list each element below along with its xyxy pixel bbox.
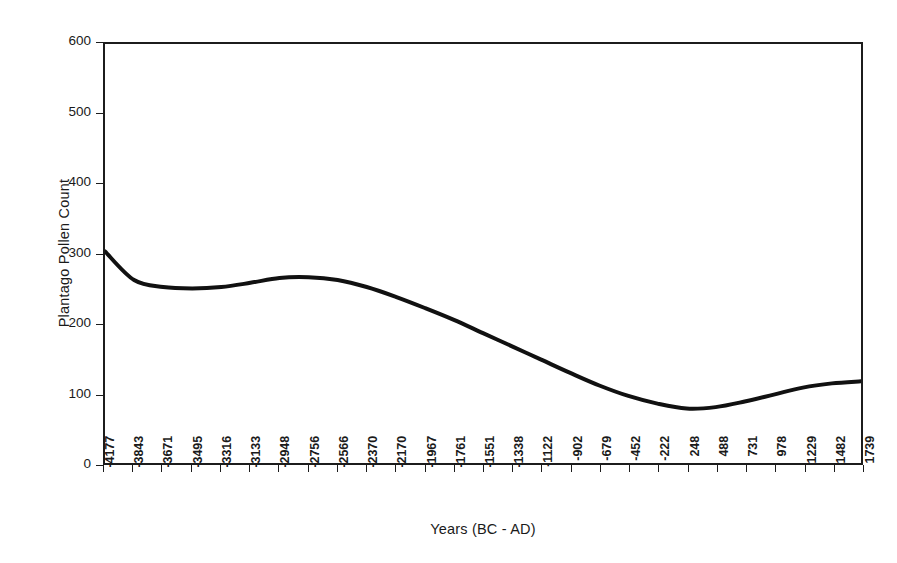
x-tick-label: -222: [658, 436, 672, 516]
y-tick-label: 300: [1, 245, 91, 260]
x-tick-label: -1551: [483, 436, 497, 516]
y-tick-label: 100: [1, 386, 91, 401]
x-tick-label: -452: [629, 436, 643, 516]
x-tick-label: -3495: [191, 436, 205, 516]
y-tick-mark: [96, 395, 103, 396]
y-tick-mark: [96, 465, 103, 466]
pollen-count-line: [105, 44, 861, 463]
x-tick-label: 1739: [863, 436, 877, 516]
x-tick-label: -4177: [103, 436, 117, 516]
x-tick-label: -679: [600, 436, 614, 516]
x-tick-label: 978: [775, 436, 789, 516]
x-tick-label: -2170: [395, 436, 409, 516]
x-tick-label: -2756: [308, 436, 322, 516]
x-tick-label: 248: [688, 436, 702, 516]
y-tick-mark: [96, 113, 103, 114]
x-tick-label: 1229: [805, 436, 819, 516]
x-tick-label: 488: [717, 436, 731, 516]
x-tick-label: -902: [571, 436, 585, 516]
x-tick-label: 1482: [834, 436, 848, 516]
y-tick-label: 500: [1, 104, 91, 119]
chart-figure: Plantago Pollen Count 600500400300200100…: [0, 0, 897, 563]
y-tick-label: 400: [1, 174, 91, 189]
series-path-plantago-pollen-count: [105, 251, 861, 408]
x-tick-label: -3843: [132, 436, 146, 516]
x-tick-label: -3133: [249, 436, 263, 516]
x-tick-label: -3316: [220, 436, 234, 516]
y-tick-label: 600: [1, 33, 91, 48]
plot-area: [103, 42, 863, 465]
y-tick-label: 0: [1, 456, 91, 471]
x-tick-label: -1967: [425, 436, 439, 516]
x-tick-label: -1122: [541, 436, 555, 516]
x-tick-label: 731: [746, 436, 760, 516]
x-axis-title: Years (BC - AD): [103, 521, 863, 537]
x-tick-label: -3671: [161, 436, 175, 516]
x-tick-label: -1338: [512, 436, 526, 516]
y-tick-mark: [96, 183, 103, 184]
x-tick-label: -2948: [278, 436, 292, 516]
x-tick-label: -2566: [337, 436, 351, 516]
y-tick-label: 200: [1, 315, 91, 330]
y-tick-mark: [96, 324, 103, 325]
y-tick-mark: [96, 254, 103, 255]
x-tick-label: -1761: [454, 436, 468, 516]
y-tick-mark: [96, 42, 103, 43]
x-tick-label: -2370: [366, 436, 380, 516]
